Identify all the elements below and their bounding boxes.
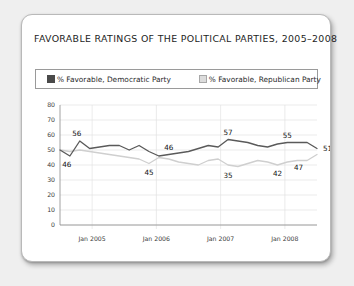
- svg-text:60: 60: [47, 131, 55, 138]
- svg-text:70: 70: [47, 116, 55, 123]
- legend-label-republican: % Favorable, Republican Party: [209, 75, 321, 84]
- svg-text:Jan 2007: Jan 2007: [206, 235, 234, 243]
- svg-text:56: 56: [72, 129, 82, 138]
- svg-text:0: 0: [51, 221, 55, 228]
- svg-text:80: 80: [47, 101, 55, 108]
- svg-text:55: 55: [283, 131, 292, 140]
- svg-text:20: 20: [47, 191, 55, 198]
- svg-text:46: 46: [62, 160, 72, 169]
- y-axis-ticks-group: 01020304050607080: [47, 101, 55, 228]
- legend-item-republican: % Favorable, Republican Party: [199, 75, 321, 84]
- svg-text:30: 30: [47, 176, 55, 183]
- svg-text:35: 35: [223, 171, 232, 180]
- svg-text:47: 47: [294, 163, 303, 172]
- legend-label-democratic: % Favorable, Democratic Party: [57, 75, 171, 84]
- svg-text:Jan 2008: Jan 2008: [270, 235, 298, 243]
- svg-text:42: 42: [273, 169, 282, 178]
- svg-text:50: 50: [47, 146, 55, 153]
- line-chart-svg: 01020304050607080 Jan 2005Jan 2006Jan 20…: [22, 99, 330, 259]
- svg-text:Jan 2005: Jan 2005: [77, 235, 105, 243]
- svg-text:57: 57: [223, 128, 232, 137]
- x-axis-ticks-group: Jan 2005Jan 2006Jan 2007Jan 2008: [77, 235, 298, 243]
- plot-area: 01020304050607080 Jan 2005Jan 2006Jan 20…: [22, 99, 330, 259]
- chart-title: FAVORABLE RATINGS OF THE POLITICAL PARTI…: [34, 33, 324, 44]
- chart-card: FAVORABLE RATINGS OF THE POLITICAL PARTI…: [21, 14, 331, 262]
- svg-text:45: 45: [144, 168, 153, 177]
- vertical-gridlines-group: [92, 105, 285, 229]
- chart-legend: % Favorable, Democratic Party % Favorabl…: [35, 69, 318, 89]
- svg-text:51: 51: [323, 144, 330, 153]
- series-group: [60, 140, 317, 167]
- legend-swatch-republican-icon: [199, 75, 207, 83]
- legend-item-democratic: % Favorable, Democratic Party: [47, 75, 171, 84]
- svg-text:46: 46: [164, 143, 174, 152]
- svg-text:Jan 2006: Jan 2006: [142, 235, 170, 243]
- legend-swatch-democratic-icon: [47, 75, 55, 83]
- svg-text:10: 10: [47, 206, 55, 213]
- svg-text:40: 40: [47, 161, 55, 168]
